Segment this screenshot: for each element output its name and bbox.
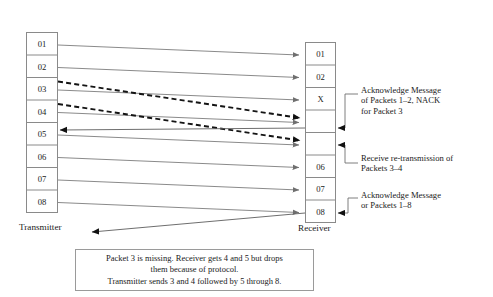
- receiver-label: Receiver: [298, 224, 331, 234]
- diagram-page: 01 02 03 04 05 06 07 08 01 02 X 06 07: [0, 0, 493, 297]
- arrow-nack-packet-3: [60, 128, 305, 130]
- callout-connectors: [338, 94, 358, 213]
- callout-final-ack: Acknowledge Message or Packets 1–8: [361, 190, 486, 211]
- callout-retransmission-line-2: Packets 3–4: [361, 163, 486, 173]
- arrow-retransmit-packet-4: [58, 104, 300, 141]
- tx-cell-4: 04: [38, 107, 47, 117]
- tx-cell-5: 05: [38, 129, 47, 139]
- callout-ack-nack-line-3: for Packet 3: [361, 106, 486, 116]
- tx-cell-2: 02: [38, 62, 47, 72]
- callout-ack-nack: Acknowledge Message of Packets 1–2, NACK…: [361, 85, 486, 116]
- callout-retransmission: Receive re-transmission of Packets 3–4: [361, 153, 486, 174]
- arrow-packet-7: [58, 180, 299, 190]
- callout-final-ack-line-2: or Packets 1–8: [361, 200, 486, 210]
- arrow-packet-2: [58, 68, 299, 78]
- rx-cell-6: 06: [316, 162, 325, 172]
- callout-final-ack-line-1: Acknowledge Message: [361, 190, 486, 200]
- arrow-final-ack: [92, 213, 305, 232]
- connector-retransmission: [338, 145, 358, 163]
- rx-cell-1: 01: [316, 49, 325, 59]
- tx-cell-8: 08: [38, 197, 47, 207]
- arrow-packet-5: [58, 135, 299, 145]
- caption-line-1: Packet 3 is missing. Receiver gets 4 and…: [76, 253, 313, 264]
- caption-line-3: Transmitter sends 3 and 4 followed by 5 …: [76, 276, 313, 287]
- rx-cell-2: 02: [316, 72, 325, 82]
- transmitter-column: 01 02 03 04 05 06 07 08: [27, 33, 58, 213]
- connector-final-ack: [338, 198, 358, 213]
- rx-cell-7: 07: [316, 184, 325, 194]
- callout-retransmission-line-1: Receive re-transmission of: [361, 153, 486, 163]
- transmitter-label: Transmitter: [19, 223, 62, 233]
- tx-cell-6: 06: [38, 152, 47, 162]
- caption-box: Packet 3 is missing. Receiver gets 4 and…: [75, 249, 314, 291]
- caption-line-2: them because of protocol.: [76, 264, 313, 275]
- rx-cell-3: X: [317, 94, 324, 104]
- rx-cell-8: 08: [316, 207, 325, 217]
- retransmission-dashed-arrows: [58, 82, 300, 141]
- arrow-packet-8: [58, 203, 299, 213]
- arrow-retransmit-packet-3: [58, 82, 300, 119]
- connector-ack-nack: [338, 94, 358, 128]
- tx-cell-1: 01: [38, 39, 47, 49]
- callout-ack-nack-line-1: Acknowledge Message: [361, 85, 486, 95]
- arrow-packet-4: [58, 113, 299, 123]
- tx-cell-7: 07: [38, 174, 47, 184]
- callout-ack-nack-line-2: of Packets 1–2, NACK: [361, 95, 486, 105]
- arrow-packet-6: [58, 158, 299, 168]
- arrow-packet-3: [58, 90, 299, 100]
- arrow-packet-1: [58, 45, 299, 55]
- tx-cell-3: 03: [38, 84, 47, 94]
- receiver-column: 01 02 X 06 07 08: [306, 43, 336, 223]
